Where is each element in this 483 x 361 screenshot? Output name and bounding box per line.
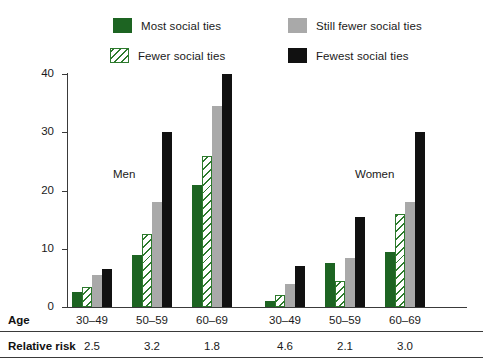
- bar: [345, 258, 355, 308]
- bar: [275, 295, 285, 307]
- legend-item-most-social-ties: Most social ties: [113, 18, 221, 33]
- legend-label: Fewest social ties: [316, 50, 409, 62]
- bar: [415, 132, 425, 307]
- bar: [72, 292, 82, 307]
- group-label-men: Men: [113, 168, 135, 180]
- legend-item-still-fewer-social-ties: Still fewer social ties: [288, 18, 422, 33]
- legend-label: Fewer social ties: [138, 50, 225, 62]
- y-axis-tick-label: 10: [28, 242, 54, 254]
- relative-risk-value: 3.2: [122, 340, 182, 352]
- social-ties-mortality-chart: Most social ties Fewer social ties Still…: [0, 0, 483, 361]
- bar: [102, 269, 112, 307]
- relative-risk-value: 4.6: [255, 340, 315, 352]
- age-value: 50–59: [122, 314, 182, 326]
- bar: [385, 252, 395, 307]
- bar: [142, 234, 152, 307]
- legend-item-fewer-social-ties: Fewer social ties: [110, 48, 225, 63]
- row-divider: [0, 331, 483, 332]
- bar: [265, 301, 275, 307]
- row-divider: [0, 357, 483, 358]
- bar: [285, 284, 295, 307]
- age-value: 30–49: [255, 314, 315, 326]
- chart-legend: Most social ties Fewer social ties Still…: [0, 8, 483, 66]
- age-row-label: Age: [8, 314, 30, 326]
- bar: [295, 266, 305, 307]
- bar: [132, 255, 142, 307]
- bar: [325, 263, 335, 307]
- age-value: 60–69: [375, 314, 435, 326]
- relative-risk-value: 2.1: [315, 340, 375, 352]
- bar: [335, 281, 345, 307]
- relative-risk-value: 2.5: [62, 340, 122, 352]
- solid-green-swatch-icon: [113, 18, 132, 33]
- bar: [152, 202, 162, 307]
- y-axis-tick-label: 0: [28, 300, 54, 312]
- bar: [222, 74, 232, 307]
- y-axis-tick-label: 20: [28, 184, 54, 196]
- relative-risk-value: 3.0: [375, 340, 435, 352]
- bar: [162, 132, 172, 307]
- legend-label: Still fewer social ties: [316, 20, 422, 32]
- x-axis-line: [67, 307, 467, 308]
- plot-area: [67, 74, 467, 307]
- age-value: 30–49: [62, 314, 122, 326]
- age-value: 60–69: [182, 314, 242, 326]
- bar: [405, 202, 415, 307]
- legend-label: Most social ties: [141, 20, 221, 32]
- bar: [92, 275, 102, 307]
- age-value: 50–59: [315, 314, 375, 326]
- bar: [202, 156, 212, 307]
- bar: [395, 214, 405, 307]
- relative-risk-value: 1.8: [182, 340, 242, 352]
- bar: [82, 287, 92, 307]
- y-axis-tick-label: 40: [28, 67, 54, 79]
- legend-item-fewest-social-ties: Fewest social ties: [288, 48, 409, 63]
- bar: [355, 217, 365, 307]
- group-label-women: Women: [355, 168, 394, 180]
- bar: [192, 185, 202, 307]
- solid-black-swatch-icon: [288, 48, 307, 63]
- solid-gray-swatch-icon: [288, 18, 307, 33]
- bar: [212, 106, 222, 307]
- y-axis-tick-label: 30: [28, 125, 54, 137]
- y-axis-tick: [62, 307, 68, 308]
- hatched-green-swatch-icon: [110, 48, 129, 63]
